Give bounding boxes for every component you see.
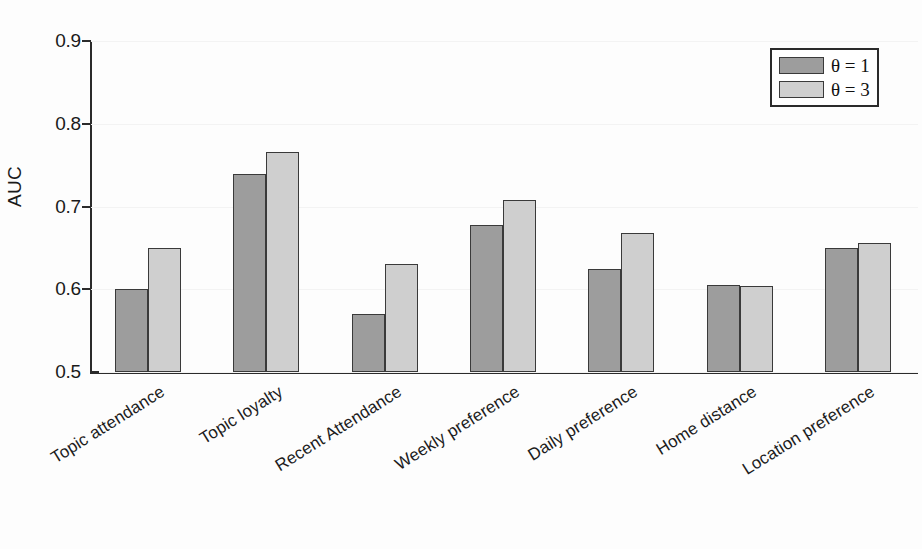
y-tick-label: 0.9 bbox=[55, 30, 81, 52]
bar-theta-1 bbox=[233, 174, 266, 372]
legend-entry-theta-1: θ = 1 bbox=[779, 55, 870, 76]
y-tick-label: 0.8 bbox=[55, 113, 81, 135]
x-tick-label: Home distance bbox=[410, 382, 760, 549]
bar-theta-3 bbox=[266, 152, 299, 372]
y-axis-title: AUC bbox=[4, 166, 26, 207]
y-tick-label: 0.6 bbox=[55, 278, 81, 300]
bar-theta-1 bbox=[352, 314, 385, 372]
legend-entry-theta-3: θ = 3 bbox=[779, 79, 870, 100]
x-tick-label: Topic attendance bbox=[0, 382, 169, 549]
bar-theta-1 bbox=[115, 289, 148, 372]
y-tick-label: 0.7 bbox=[55, 196, 81, 218]
bar-theta-3 bbox=[385, 264, 418, 372]
bar-chart-figure: AUC 0.50.60.70.80.9 Topic attendanceTopi… bbox=[0, 0, 922, 549]
x-tick-label: Daily preference bbox=[292, 382, 642, 549]
bar-theta-3 bbox=[740, 286, 773, 372]
bar-theta-3 bbox=[621, 233, 654, 372]
chart-legend: θ = 1 θ = 3 bbox=[770, 48, 879, 107]
bar-theta-3 bbox=[503, 200, 536, 372]
bar-theta-3 bbox=[858, 243, 891, 372]
x-tick-label: Weekly preference bbox=[174, 382, 524, 549]
bar-theta-1 bbox=[825, 248, 858, 372]
legend-label-theta-1: θ = 1 bbox=[831, 55, 870, 77]
legend-swatch-theta-1 bbox=[779, 57, 824, 74]
bar-theta-1 bbox=[707, 285, 740, 372]
bar-theta-1 bbox=[588, 269, 621, 372]
y-tick-label: 0.5 bbox=[55, 361, 81, 383]
x-tick-label: Recent Attendance bbox=[55, 382, 405, 549]
bar-theta-1 bbox=[470, 225, 503, 372]
bar-theta-3 bbox=[148, 248, 181, 372]
x-tick-label: Location preference bbox=[529, 382, 879, 549]
legend-label-theta-3: θ = 3 bbox=[831, 79, 870, 101]
legend-swatch-theta-3 bbox=[779, 81, 824, 98]
y-gridline bbox=[90, 372, 918, 373]
x-tick-label: Topic loyalty bbox=[0, 382, 287, 549]
